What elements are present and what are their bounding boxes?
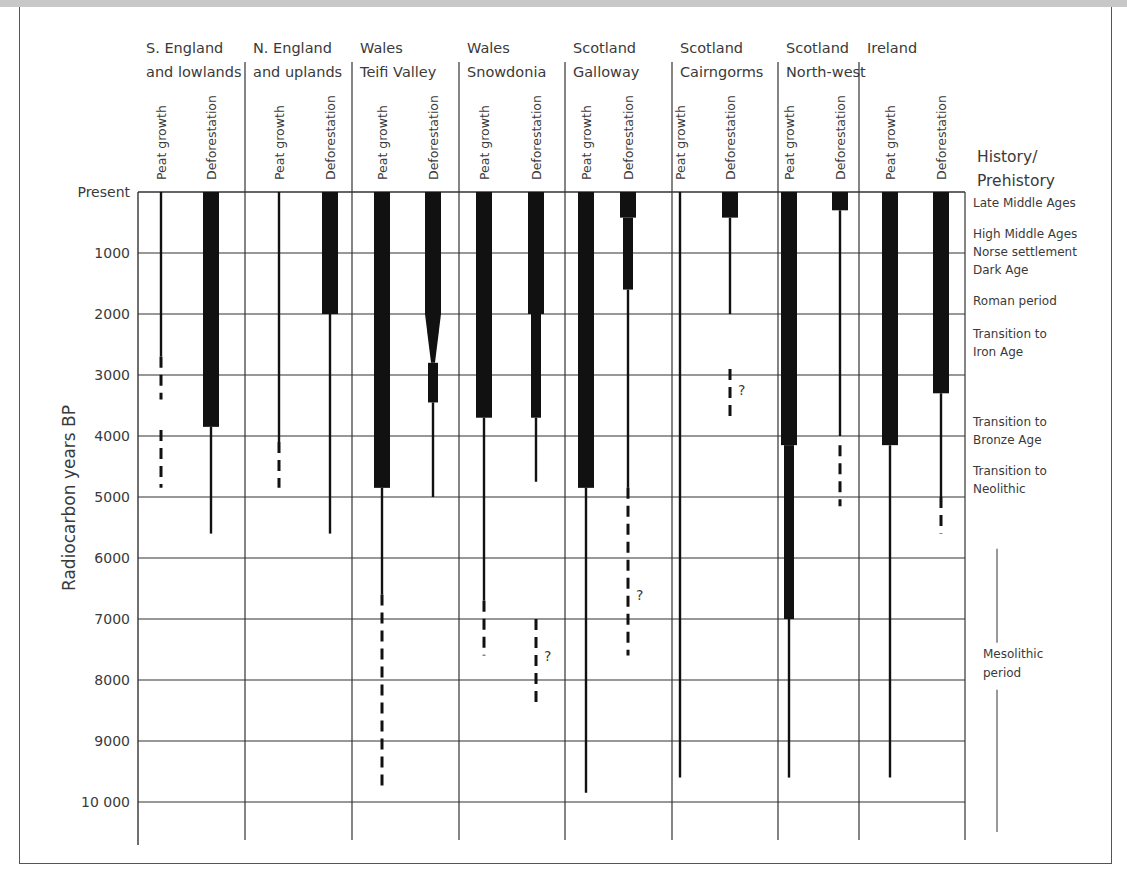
bar-segment bbox=[528, 192, 544, 314]
column-label: Deforestation bbox=[529, 95, 544, 180]
chart: Present100020003000400050006000700080009… bbox=[0, 0, 1127, 883]
column-label: Peat growth bbox=[782, 105, 797, 180]
column-label: Deforestation bbox=[204, 95, 219, 180]
column-label: Peat growth bbox=[272, 105, 287, 180]
bar-segment bbox=[832, 192, 848, 210]
column-label: Peat growth bbox=[375, 105, 390, 180]
region-name: and lowlands bbox=[146, 64, 242, 80]
y-tick-label: 7000 bbox=[94, 611, 130, 627]
question-mark: ? bbox=[636, 587, 643, 603]
column-label: Peat growth bbox=[477, 105, 492, 180]
history-period: Transition to bbox=[972, 464, 1047, 478]
column-label: Deforestation bbox=[426, 95, 441, 180]
bar-segment bbox=[203, 192, 219, 427]
bar-segment bbox=[428, 363, 438, 403]
bar-segment bbox=[784, 445, 794, 619]
history-period: Roman period bbox=[973, 294, 1057, 308]
region-name: and uplands bbox=[253, 64, 342, 80]
history-period: High Middle Ages bbox=[973, 227, 1077, 241]
history-period: Bronze Age bbox=[973, 433, 1042, 447]
y-tick-label: 5000 bbox=[94, 489, 130, 505]
history-period: Norse settlement bbox=[973, 245, 1077, 259]
history-header: History/ bbox=[977, 148, 1038, 166]
region-name: North-west bbox=[786, 64, 866, 80]
region-name: Galloway bbox=[573, 64, 640, 80]
history-period: Transition to bbox=[972, 327, 1047, 341]
region-name: Wales bbox=[467, 40, 510, 56]
bar-segment bbox=[531, 314, 541, 418]
column-label: Deforestation bbox=[723, 95, 738, 180]
history-period: Mesolithic bbox=[983, 647, 1043, 661]
y-tick-label: 8000 bbox=[94, 672, 130, 688]
bar-segment bbox=[476, 192, 492, 418]
region-name: Scotland bbox=[573, 40, 636, 56]
region-name: Ireland bbox=[867, 40, 917, 56]
y-tick-label: 10 000 bbox=[81, 794, 130, 810]
bar-segment bbox=[781, 192, 797, 445]
column-label: Peat growth bbox=[579, 105, 594, 180]
bar-segment bbox=[374, 192, 390, 488]
bar-segment bbox=[933, 192, 949, 393]
region-name: Snowdonia bbox=[467, 64, 546, 80]
y-tick-label: 2000 bbox=[94, 306, 130, 322]
region-name: Scotland bbox=[680, 40, 743, 56]
column-label: Deforestation bbox=[833, 95, 848, 180]
region-name: Cairngorms bbox=[680, 64, 763, 80]
column-label: Peat growth bbox=[154, 105, 169, 180]
y-axis-title: Radiocarbon years BP bbox=[59, 405, 79, 591]
bar-segment bbox=[882, 192, 898, 445]
bar-segment bbox=[322, 192, 338, 314]
history-period: period bbox=[983, 666, 1021, 680]
bar-segment bbox=[722, 192, 738, 218]
column-label: Peat growth bbox=[883, 105, 898, 180]
y-tick-label: 4000 bbox=[94, 428, 130, 444]
bar-segment bbox=[578, 192, 594, 488]
column-label: Deforestation bbox=[323, 95, 338, 180]
taper-segment bbox=[425, 314, 441, 363]
bar-segment bbox=[620, 192, 636, 218]
y-tick-label: 6000 bbox=[94, 550, 130, 566]
column-label: Deforestation bbox=[934, 95, 949, 180]
region-name: Scotland bbox=[786, 40, 849, 56]
history-period: Dark Age bbox=[973, 263, 1029, 277]
question-mark: ? bbox=[738, 382, 745, 398]
history-period: Neolithic bbox=[973, 482, 1026, 496]
region-name: Teifi Valley bbox=[359, 64, 437, 80]
y-tick-label: 1000 bbox=[94, 245, 130, 261]
history-period: Iron Age bbox=[973, 345, 1023, 359]
history-period: Late Middle Ages bbox=[973, 196, 1076, 210]
y-tick-label: 3000 bbox=[94, 367, 130, 383]
history-period: Transition to bbox=[972, 415, 1047, 429]
bar-segment bbox=[425, 192, 441, 314]
history-header: Prehistory bbox=[977, 172, 1055, 190]
question-mark: ? bbox=[544, 648, 551, 664]
region-name: N. England bbox=[253, 40, 332, 56]
column-label: Peat growth bbox=[673, 105, 688, 180]
region-name: S. England bbox=[146, 40, 223, 56]
bar-segment bbox=[623, 218, 633, 290]
y-tick-label: 9000 bbox=[94, 733, 130, 749]
region-name: Wales bbox=[360, 40, 403, 56]
y-tick-label: Present bbox=[77, 184, 130, 200]
column-label: Deforestation bbox=[621, 95, 636, 180]
